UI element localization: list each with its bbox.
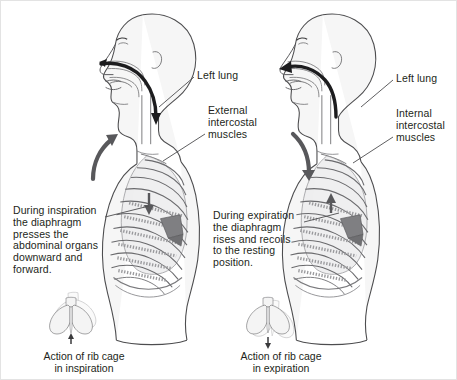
label-expiration-description: During expiration the diaphragm rises an… — [213, 210, 294, 269]
label-left-lung-expiration: Left lung — [396, 73, 437, 85]
left-panel-inspiration — [50, 14, 205, 345]
anatomy-illustration — [1, 1, 457, 380]
ribcage-arrow-down — [293, 134, 315, 181]
label-internal-intercostal-muscles: Internal intercostal muscles — [396, 108, 445, 143]
right-panel-expiration — [247, 14, 393, 349]
respiration-figure: Left lung External intercostal muscles D… — [0, 0, 457, 380]
leader-internal-ic — [353, 137, 393, 163]
ribcage-arrow-up — [93, 134, 118, 179]
label-external-intercostal-muscles: External intercostal muscles — [208, 105, 257, 140]
label-left-lung-inspiration: Left lung — [197, 70, 238, 82]
ribcage-cross-section-expiration — [247, 297, 296, 349]
label-inspiration-description: During inspiration the diaphragm presses… — [13, 205, 98, 276]
caption-ribcage-expiration: Action of rib cage in expiration — [216, 350, 346, 374]
caption-ribcage-inspiration: Action of rib cage in inspiration — [19, 350, 149, 374]
ribcage-cross-section-inspiration — [50, 291, 97, 344]
